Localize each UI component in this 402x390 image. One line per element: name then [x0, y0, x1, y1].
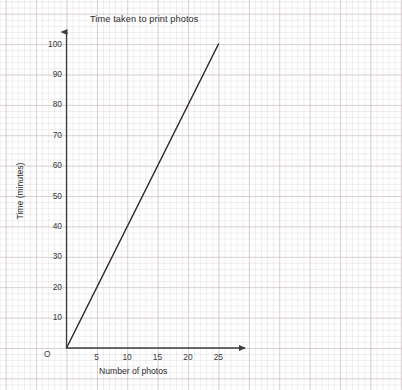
x-tick-label-15: 15 [148, 352, 168, 362]
y-tick-label-30: 30 [40, 251, 62, 261]
y-axis-title: Time (minutes) [15, 151, 25, 231]
x-tick-label-5: 5 [87, 352, 107, 362]
origin-label: O [44, 349, 51, 359]
x-tick-label-20: 20 [178, 352, 198, 362]
chart-page: Time taken to print photos 100 90 80 70 … [0, 0, 402, 390]
data-series-line [67, 44, 219, 348]
y-tick-label-60: 60 [40, 160, 62, 170]
y-tick-label-100: 100 [40, 39, 62, 49]
y-tick-label-10: 10 [40, 312, 62, 322]
x-axis-title: Number of photos [99, 366, 167, 376]
y-tick-label-50: 50 [40, 191, 62, 201]
y-tick-label-70: 70 [40, 130, 62, 140]
y-tick-label-40: 40 [40, 221, 62, 231]
x-tick-label-10: 10 [117, 352, 137, 362]
y-tick-label-90: 90 [40, 69, 62, 79]
y-tick-label-20: 20 [40, 282, 62, 292]
x-tick-label-25: 25 [208, 352, 228, 362]
y-tick-label-80: 80 [40, 99, 62, 109]
